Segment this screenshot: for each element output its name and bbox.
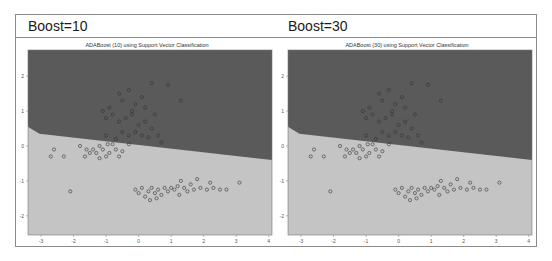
y-tick-label: 2 — [21, 73, 24, 79]
x-tick-label: -2 — [71, 238, 76, 244]
x-tick-label: -1 — [364, 238, 369, 244]
y-tick-label: 0 — [21, 143, 24, 149]
x-tick-label: 2 — [202, 238, 205, 244]
x-tick-label: 3 — [235, 238, 238, 244]
x-tick-label: 0 — [137, 238, 140, 244]
x-tick-label: -3 — [39, 238, 44, 244]
y-tick-label: -2 — [280, 213, 285, 219]
y-tick-label: 1 — [21, 108, 24, 114]
chart-boost-30: ADABoost (30) using Support Vector Class… — [276, 37, 538, 247]
chart-title: ADABoost (30) using Support Vector Class… — [345, 42, 468, 48]
y-tick-label: 2 — [281, 73, 284, 79]
y-tick-label: 1 — [281, 108, 284, 114]
x-tick-label: 1 — [430, 238, 433, 244]
y-tick-label: -2 — [20, 213, 25, 219]
plot-area: -3-2-101234210-1-2 — [280, 50, 532, 244]
plot-area: -3-2-101234210-1-2 — [20, 50, 272, 244]
x-tick-label: -3 — [299, 238, 304, 244]
y-tick-label: 0 — [281, 143, 284, 149]
figure-frame: Boost=10 Boost=30 ADABoost (10) using Su… — [15, 14, 537, 247]
chart-title: ADABoost (10) using Support Vector Class… — [85, 42, 208, 48]
chart-boost-10: ADABoost (10) using Support Vector Class… — [16, 37, 278, 247]
header-bar: Boost=10 Boost=30 — [16, 15, 536, 38]
x-tick-label: 4 — [267, 238, 270, 244]
y-tick-label: -1 — [280, 178, 285, 184]
x-tick-label: 3 — [495, 238, 498, 244]
right-panel-label: Boost=30 — [288, 18, 348, 34]
y-tick-label: -1 — [20, 178, 25, 184]
x-tick-label: 4 — [527, 238, 530, 244]
left-panel-label: Boost=10 — [28, 18, 88, 34]
x-tick-label: -2 — [331, 238, 336, 244]
x-tick-label: 1 — [170, 238, 173, 244]
x-tick-label: -1 — [104, 238, 109, 244]
x-tick-label: 0 — [397, 238, 400, 244]
x-tick-label: 2 — [462, 238, 465, 244]
